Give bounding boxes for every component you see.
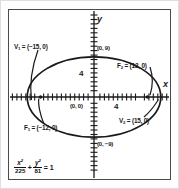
vertex-left-value: = (−15, 0) bbox=[20, 43, 47, 50]
vertex-right-value: = (15, 0) bbox=[125, 117, 149, 124]
vertex-right-label: V2 = (15, 0) bbox=[119, 118, 149, 124]
y-scale-tick-label: 4 bbox=[79, 70, 83, 78]
equals-one: = 1 bbox=[44, 164, 54, 171]
plus-operator: + bbox=[28, 164, 32, 171]
covertex-bottom-label: (0, −9) bbox=[97, 141, 113, 147]
focus-right-value: = (12, 0) bbox=[123, 62, 147, 69]
ellipse-figure: y x V1 = (−15, 0) V2 = (15, 0) F1 = (−12… bbox=[0, 0, 179, 189]
focus-left-value: = (−12, 0) bbox=[30, 124, 57, 131]
y-term-numerator: y2 bbox=[34, 160, 42, 167]
x-axis-label: x bbox=[163, 80, 168, 89]
vertex-right-leader bbox=[144, 100, 159, 118]
focus-right-subscript: 2 bbox=[121, 65, 123, 70]
y-axis-label: y bbox=[97, 15, 102, 24]
y-term-denominator: 81 bbox=[33, 168, 42, 175]
focus-left-subscript: 1 bbox=[28, 127, 30, 132]
focus-right-leader bbox=[150, 67, 152, 95]
x-term-numerator: x2 bbox=[16, 160, 24, 167]
vertex-left-label: V1 = (−15, 0) bbox=[14, 44, 48, 50]
vertex-left-subscript: 1 bbox=[18, 46, 20, 51]
origin-label: (0, 0) bbox=[70, 103, 83, 109]
y-exponent: 2 bbox=[38, 158, 40, 163]
x-exponent: 2 bbox=[21, 158, 23, 163]
ellipse-equation: x2 225 + y2 81 = 1 bbox=[14, 160, 54, 175]
x-scale-tick-label: 4 bbox=[114, 103, 118, 111]
x-term-fraction: x2 225 bbox=[14, 160, 26, 175]
y-term-fraction: y2 81 bbox=[33, 160, 42, 175]
focus-right-label: F2 = (12, 0) bbox=[117, 63, 147, 69]
focus-left-marker bbox=[39, 95, 42, 98]
focus-right-marker bbox=[146, 95, 149, 98]
covertex-top-label: (0, 9) bbox=[97, 45, 110, 51]
focus-left-label: F1 = (−12, 0) bbox=[24, 125, 57, 131]
vertex-right-subscript: 2 bbox=[123, 120, 125, 125]
x-term-denominator: 225 bbox=[14, 168, 26, 175]
